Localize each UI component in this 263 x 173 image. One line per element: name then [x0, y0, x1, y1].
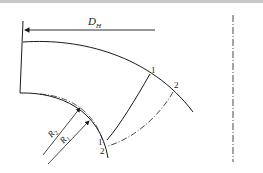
point-2-top-label: 2	[174, 80, 179, 90]
hub-curve	[20, 93, 108, 158]
point-1-top-label: 1	[151, 65, 156, 75]
point-2-bottom-label: 2	[100, 146, 105, 156]
leading-edge-line-1	[107, 74, 150, 140]
shroud-curve	[23, 41, 193, 112]
radius-r1-arrow	[48, 121, 89, 164]
leading-edge-line-2	[108, 92, 173, 146]
inlet-edge	[20, 21, 23, 93]
impeller-diagram: DH R2 R1 1 2 1 2	[0, 0, 263, 173]
diameter-label: DH	[87, 15, 102, 30]
